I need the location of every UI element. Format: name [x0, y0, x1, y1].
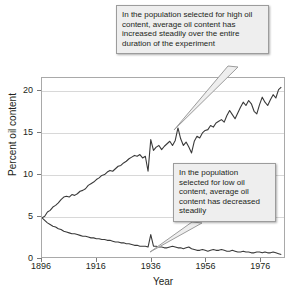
- callout-high-oil: In the population selected for high oil …: [116, 5, 269, 54]
- y-tick-label: 5: [13, 212, 33, 221]
- y-tick-label: 15: [13, 128, 33, 137]
- y-tick-label: 20: [13, 86, 33, 95]
- oil-content-chart-figure: Percent oil content 05101520 18961916193…: [0, 0, 295, 299]
- y-tick-label: 10: [13, 170, 33, 179]
- x-tick-label: 1956: [185, 261, 225, 271]
- x-tick-mark: [96, 258, 97, 262]
- x-tick-label: 1896: [21, 261, 61, 271]
- callout-high-tail: [172, 66, 242, 132]
- x-tick-mark: [260, 258, 261, 262]
- x-tick-label: 1976: [240, 261, 280, 271]
- x-tick-label: 1936: [131, 261, 171, 271]
- x-tick-label: 1916: [76, 261, 116, 271]
- callout-low-tail: [148, 222, 206, 254]
- x-axis-title: Year: [41, 276, 285, 287]
- x-tick-mark: [151, 258, 152, 262]
- x-tick-mark: [205, 258, 206, 262]
- callout-low-oil: In the population selected for low oil c…: [173, 163, 276, 222]
- x-tick-mark: [41, 258, 42, 262]
